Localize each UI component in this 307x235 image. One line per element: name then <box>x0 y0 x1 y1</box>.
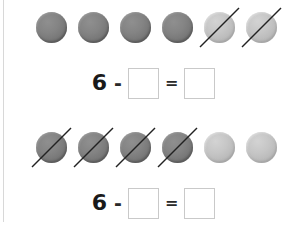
counter-disc <box>246 12 277 43</box>
equals-sign: = <box>165 75 178 91</box>
counter-disc <box>204 12 235 43</box>
counter-1-1[interactable] <box>36 12 67 43</box>
counter-disc <box>162 132 193 163</box>
minuend-value: 6 <box>92 192 107 214</box>
counter-1-5[interactable] <box>204 12 235 43</box>
problem-2: 6 - = <box>0 110 307 235</box>
counter-row-1 <box>0 0 307 56</box>
counter-1-4[interactable] <box>162 12 193 43</box>
counter-2-2[interactable] <box>78 132 109 163</box>
counter-disc <box>36 132 67 163</box>
counter-disc <box>246 132 277 163</box>
counter-disc <box>162 12 193 43</box>
difference-input[interactable] <box>184 188 215 219</box>
minus-sign: - <box>114 194 122 213</box>
minuend-value: 6 <box>92 72 107 94</box>
counter-row-2 <box>0 120 307 176</box>
counter-2-1[interactable] <box>36 132 67 163</box>
counter-disc <box>120 132 151 163</box>
counter-disc <box>78 12 109 43</box>
counter-2-3[interactable] <box>120 132 151 163</box>
subtrahend-input[interactable] <box>128 188 159 219</box>
counter-2-4[interactable] <box>162 132 193 163</box>
counter-disc <box>78 132 109 163</box>
counter-1-3[interactable] <box>120 12 151 43</box>
counter-1-6[interactable] <box>246 12 277 43</box>
counter-disc <box>120 12 151 43</box>
counter-2-5[interactable] <box>204 132 235 163</box>
counter-disc <box>36 12 67 43</box>
counter-1-2[interactable] <box>78 12 109 43</box>
counter-disc <box>204 132 235 163</box>
subtrahend-input[interactable] <box>128 68 159 99</box>
equation-2: 6 - = <box>0 182 307 224</box>
equals-sign: = <box>165 195 178 211</box>
counter-2-6[interactable] <box>246 132 277 163</box>
equation-1: 6 - = <box>0 62 307 104</box>
worksheet-page: 6 - = <box>0 0 307 235</box>
difference-input[interactable] <box>184 68 215 99</box>
minus-sign: - <box>114 74 122 93</box>
problem-1: 6 - = <box>0 0 307 115</box>
